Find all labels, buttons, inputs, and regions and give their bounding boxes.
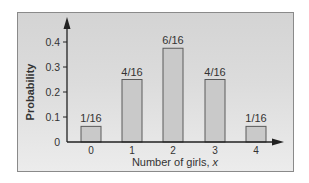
bar-4 xyxy=(246,126,266,142)
x-tick-label: 0 xyxy=(88,145,94,156)
bar-value-label: 6/16 xyxy=(162,34,183,46)
probability-bar-chart: 1/1604/1616/1624/1631/16400.10.20.30.4Pr… xyxy=(0,0,309,183)
bar-value-label: 4/16 xyxy=(121,66,142,78)
y-tick-label: 0 xyxy=(54,136,60,148)
x-axis-arrow-icon xyxy=(272,139,284,146)
x-tick-label: 2 xyxy=(170,145,176,156)
y-tick-label: 0.4 xyxy=(45,36,60,48)
x-tick-label: 1 xyxy=(129,145,135,156)
y-tick-label: 0.1 xyxy=(45,111,60,123)
bar-1 xyxy=(122,80,142,143)
bar-value-label: 4/16 xyxy=(204,66,225,78)
bar-value-label: 1/16 xyxy=(80,112,101,124)
x-tick-label: 4 xyxy=(253,145,259,156)
x-axis-label: Number of girls, x xyxy=(132,156,219,168)
bar-2 xyxy=(163,48,183,142)
bar-3 xyxy=(205,80,225,143)
y-axis-label: Probability xyxy=(24,63,36,121)
y-tick-label: 0.2 xyxy=(45,86,60,98)
bar-0 xyxy=(81,126,101,142)
bar-value-label: 1/16 xyxy=(245,112,266,124)
y-axis-arrow-icon xyxy=(64,17,71,29)
x-tick-label: 3 xyxy=(212,145,218,156)
y-tick-label: 0.3 xyxy=(45,61,60,73)
